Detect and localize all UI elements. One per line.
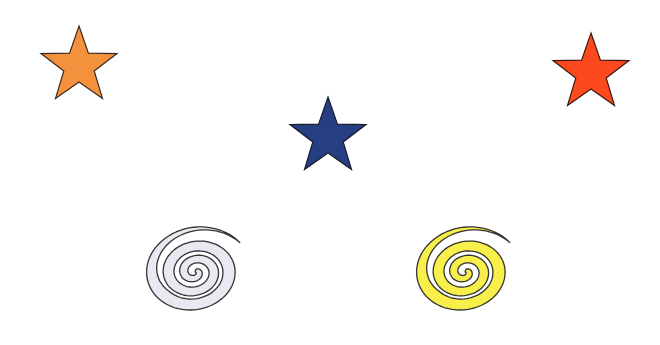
- lavender-spiral-icon: [140, 220, 250, 317]
- shapes-svg: [0, 0, 660, 345]
- drawing-canvas: [0, 0, 660, 345]
- orange-star-icon: [41, 26, 117, 98]
- red-star-icon: [553, 33, 629, 105]
- blue-star-icon: [290, 97, 366, 169]
- yellow-spiral-icon: [410, 220, 520, 317]
